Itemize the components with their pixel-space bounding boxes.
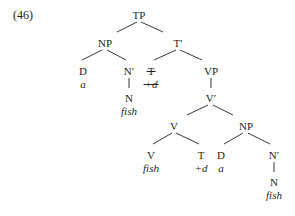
node-t: T (198, 149, 205, 161)
word-v-fish: fish (143, 162, 159, 174)
node-tp: TP (133, 9, 146, 21)
node-object-np: NP (239, 120, 253, 132)
node-vp: VP (204, 65, 218, 77)
node-t-trace: T (148, 65, 155, 77)
word-object-a: a (218, 162, 224, 174)
word-t-plus-d: +d (195, 162, 208, 174)
word-object-fish: fish (266, 189, 282, 201)
word-subject-a: a (80, 78, 86, 90)
struck-plus-d: +d (145, 78, 158, 90)
node-tbar: T′ (173, 37, 182, 49)
node-v: V (147, 149, 155, 161)
node-subject-np: NP (98, 37, 112, 49)
node-vbar: V′ (206, 92, 216, 104)
node-subject-nbar: N′ (124, 65, 134, 77)
tree-branches (0, 0, 295, 216)
word-subject-fish: fish (121, 105, 137, 117)
word-t-trace: +d (145, 78, 158, 90)
node-object-d: D (217, 149, 225, 161)
node-object-nbar: N′ (269, 149, 279, 161)
node-complex-v: V (170, 120, 178, 132)
node-subject-d: D (79, 65, 87, 77)
struck-t: T (148, 65, 155, 77)
node-object-n: N (270, 176, 278, 188)
node-subject-n: N (125, 92, 133, 104)
